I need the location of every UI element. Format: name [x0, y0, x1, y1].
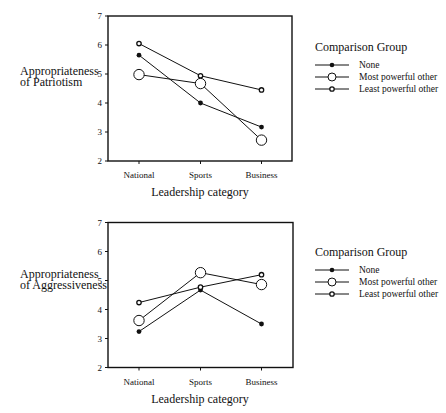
x-axis-label: Leadership category [151, 185, 249, 199]
legend-label: None [359, 60, 380, 70]
small-open-dot-marker [137, 300, 141, 304]
legend-item-none: None [315, 264, 438, 276]
legend: Comparison Group None Most powerful othe… [315, 40, 438, 95]
y-tick-label: 2 [98, 363, 103, 373]
legend-item-most-powerful: Most powerful other [315, 276, 438, 288]
y-tick-label: 2 [98, 156, 103, 166]
x-tick-label: Sports [189, 170, 213, 180]
small-open-dot-marker [259, 88, 263, 92]
x-tick-label: National [124, 377, 155, 387]
legend-label: Most powerful other [359, 72, 437, 82]
line-chart-aggressiveness: 234567NationalSportsBusinessLeadership c… [0, 205, 446, 413]
legend-item-least-powerful: Least powerful other [315, 288, 438, 300]
y-tick-label: 6 [98, 247, 103, 257]
filled-dot-marker [259, 125, 264, 130]
open-circle-marker-icon [315, 277, 349, 287]
line-chart-patriotism: 234567NationalSportsBusinessLeadership c… [0, 0, 446, 205]
small-open-dot-marker [259, 273, 263, 277]
open-circle-marker [256, 279, 266, 289]
filled-dot-marker [198, 101, 203, 106]
legend-label: Least powerful other [359, 289, 438, 299]
series-line [139, 55, 262, 127]
legend-label: Most powerful other [359, 277, 437, 287]
open-circle-marker [134, 315, 144, 325]
legend-title: Comparison Group [315, 40, 438, 55]
filled-dot-marker [259, 322, 264, 327]
y-axis-label: Appropriateness of Patriotism [20, 66, 99, 88]
y-tick-label: 4 [98, 98, 103, 108]
legend-item-none: None [315, 59, 438, 71]
y-tick-label: 4 [98, 305, 103, 315]
legend: Comparison Group None Most powerful othe… [315, 245, 438, 300]
small-open-dot-marker [198, 285, 202, 289]
open-circle-marker-icon [315, 72, 349, 82]
filled-dot-marker-icon [315, 60, 349, 70]
y-axis-label: Appropriateness of Aggressiveness [20, 269, 107, 291]
open-circle-marker [256, 135, 266, 145]
open-circle-marker [195, 78, 205, 88]
chart-panel-patriotism: 234567NationalSportsBusinessLeadership c… [0, 0, 446, 205]
small-open-dot-marker-icon [315, 84, 349, 94]
x-tick-label: National [124, 170, 155, 180]
small-open-dot-marker-icon [315, 289, 349, 299]
x-tick-label: Business [245, 170, 278, 180]
legend-title: Comparison Group [315, 245, 438, 260]
y-tick-label: 6 [98, 40, 103, 50]
plot-frame [108, 223, 293, 368]
filled-dot-marker [137, 329, 142, 334]
legend-label: None [359, 265, 380, 275]
y-tick-label: 3 [98, 127, 103, 137]
filled-dot-marker-icon [315, 265, 349, 275]
open-circle-marker [134, 69, 144, 79]
y-axis-label-line2: of Patriotism [20, 77, 99, 88]
small-open-dot-marker [137, 41, 141, 45]
y-tick-label: 3 [98, 334, 103, 344]
open-circle-marker [195, 267, 205, 277]
chart-panel-aggressiveness: 234567NationalSportsBusinessLeadership c… [0, 205, 446, 413]
y-tick-label: 7 [98, 11, 103, 21]
filled-dot-marker [137, 53, 142, 58]
x-axis-label: Leadership category [151, 392, 249, 406]
y-axis-label-line2: of Aggressiveness [20, 280, 107, 291]
y-tick-label: 7 [98, 218, 103, 228]
series-line [139, 290, 262, 331]
legend-label: Least powerful other [359, 84, 438, 94]
x-tick-label: Sports [189, 377, 213, 387]
small-open-dot-marker [198, 74, 202, 78]
legend-item-least-powerful: Least powerful other [315, 83, 438, 95]
x-tick-label: Business [245, 377, 278, 387]
legend-item-most-powerful: Most powerful other [315, 71, 438, 83]
